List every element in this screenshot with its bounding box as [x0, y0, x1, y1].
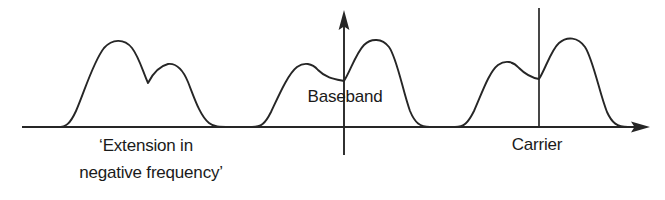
- carrier-lobe-curve: [455, 38, 628, 127]
- spectrum-figure-canvas: Baseband Carrier ‘Extension in negative …: [0, 0, 665, 200]
- amplitude-axis: [339, 10, 350, 155]
- baseband-lobe-curve: [252, 40, 430, 127]
- frequency-axis: [22, 122, 650, 133]
- carrier-label: Carrier: [512, 135, 563, 154]
- baseband-label: Baseband: [308, 87, 383, 106]
- spectrum-diagram: Baseband Carrier ‘Extension in negative …: [0, 0, 665, 200]
- extension-label-line-2: negative frequency’: [79, 163, 223, 182]
- negative-frequency-lobe-curve: [58, 41, 230, 127]
- extension-label-line-1: ‘Extension in: [99, 136, 193, 155]
